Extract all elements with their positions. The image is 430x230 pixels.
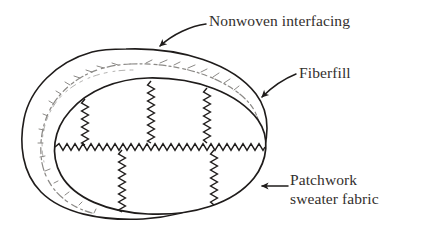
label-fiberfill: Fiberfill (299, 64, 351, 82)
arrow-fiberfill (262, 74, 296, 97)
label-nonwoven-interfacing: Nonwoven interfacing (209, 12, 350, 30)
figure-container: Nonwoven interfacing Fiberfill Patchwork… (0, 0, 430, 230)
arrow-nonwoven-interfacing (160, 24, 206, 46)
label-patchwork-sweater-fabric: Patchwork sweater fabric (290, 170, 430, 208)
label-patchwork-line-1: Patchwork (290, 170, 430, 189)
label-patchwork-line-2: sweater fabric (290, 189, 430, 208)
